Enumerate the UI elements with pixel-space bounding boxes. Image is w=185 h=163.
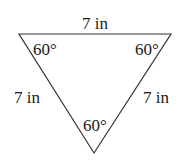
angle-label-top-right: 60° bbox=[135, 40, 159, 59]
angle-label-top-left: 60° bbox=[33, 40, 57, 59]
side-label-top: 7 in bbox=[82, 14, 108, 33]
triangle-diagram: 7 in 7 in 7 in 60° 60° 60° bbox=[0, 0, 185, 163]
side-label-left: 7 in bbox=[14, 88, 40, 107]
side-label-right: 7 in bbox=[143, 88, 169, 107]
angle-label-bottom: 60° bbox=[83, 116, 107, 135]
